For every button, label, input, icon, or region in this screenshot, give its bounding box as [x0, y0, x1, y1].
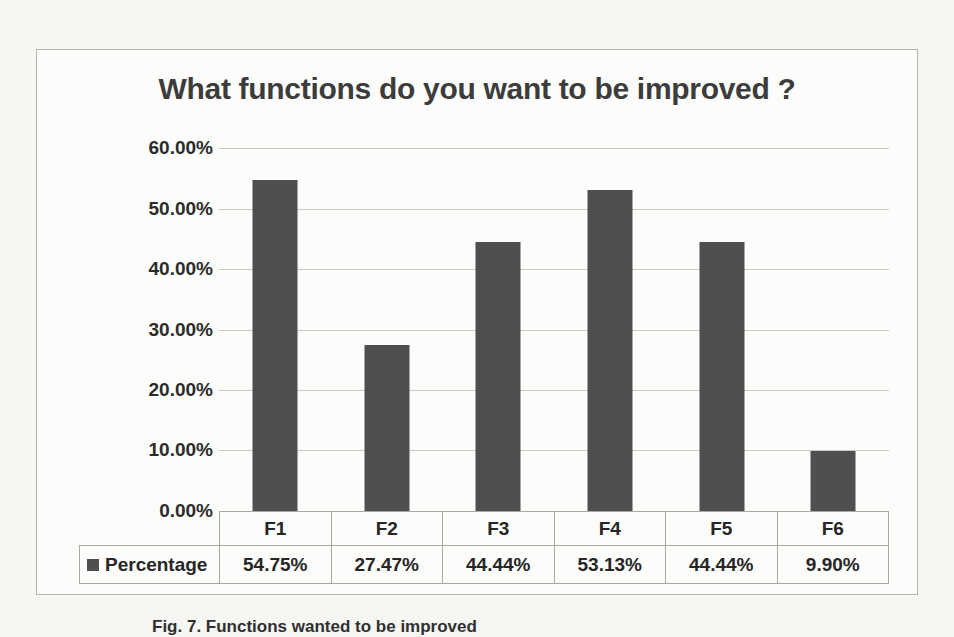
data-value: 9.90% — [777, 546, 889, 583]
category-label: F4 — [554, 512, 666, 545]
bar-column-f3 — [442, 148, 554, 511]
bar-series — [219, 148, 889, 511]
category-label: F3 — [442, 512, 554, 545]
bar-f1 — [252, 180, 297, 511]
bar-f2 — [364, 345, 409, 511]
figure-caption: Fig. 7. Functions wanted to be improved — [152, 617, 477, 637]
legend-cell: Percentage — [80, 546, 220, 583]
category-label: F1 — [220, 512, 331, 545]
bar-f6 — [811, 451, 856, 511]
y-axis-tick-label: 40.00% — [149, 258, 213, 280]
y-axis-tick-label: 30.00% — [149, 319, 213, 341]
bar-column-f5 — [666, 148, 778, 511]
y-axis-tick-label: 20.00% — [149, 379, 213, 401]
y-axis: 60.00% 50.00% 40.00% 30.00% 20.00% 10.00… — [73, 148, 213, 511]
category-label: F2 — [331, 512, 443, 545]
bar-column-f1 — [219, 148, 331, 511]
bar-column-f6 — [777, 148, 889, 511]
y-axis-tick-label: 60.00% — [149, 137, 213, 159]
legend-series-label: Percentage — [105, 554, 207, 576]
data-value: 27.47% — [331, 546, 443, 583]
data-value: 54.75% — [220, 546, 331, 583]
bar-f4 — [587, 190, 632, 511]
chart-figure: What functions do you want to be improve… — [36, 49, 918, 595]
data-value: 44.44% — [442, 546, 554, 583]
category-label: F5 — [665, 512, 777, 545]
y-axis-tick-label: 0.00% — [159, 500, 213, 522]
bar-f3 — [476, 242, 521, 511]
legend-marker-icon — [87, 559, 99, 571]
bar-f5 — [699, 242, 744, 511]
y-axis-tick-label: 10.00% — [149, 439, 213, 461]
chart-title: What functions do you want to be improve… — [37, 72, 917, 106]
plot-area — [219, 148, 889, 511]
data-value: 53.13% — [554, 546, 666, 583]
bar-column-f2 — [331, 148, 443, 511]
category-label: F6 — [777, 512, 889, 545]
data-table-row: Percentage 54.75% 27.47% 44.44% 53.13% 4… — [79, 545, 889, 584]
bar-column-f4 — [554, 148, 666, 511]
y-axis-tick-label: 50.00% — [149, 198, 213, 220]
category-header-row: F1 F2 F3 F4 F5 F6 — [219, 511, 889, 546]
data-value: 44.44% — [665, 546, 777, 583]
